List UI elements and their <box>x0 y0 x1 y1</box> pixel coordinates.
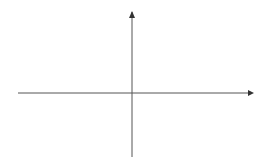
axes <box>18 11 254 157</box>
graph-of-g <box>0 0 261 167</box>
x-axis-arrow-icon <box>248 90 254 96</box>
y-axis-arrow-icon <box>129 11 135 18</box>
